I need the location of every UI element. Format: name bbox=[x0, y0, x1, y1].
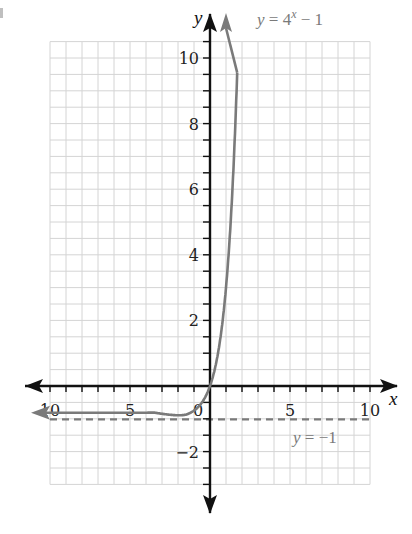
y-axis-label: y bbox=[192, 7, 203, 28]
x-tick-label: 10 bbox=[360, 401, 380, 420]
asym-eq-y: y bbox=[291, 428, 301, 447]
y-tick-label: 2 bbox=[189, 311, 199, 330]
y-tick-label: 6 bbox=[189, 180, 199, 199]
y-tick-label: 8 bbox=[189, 115, 199, 134]
axes bbox=[25, 13, 398, 514]
x-tick-label: 5 bbox=[125, 401, 135, 420]
curve-equation-label: y = 4x − 1 bbox=[255, 7, 323, 29]
curve-eq-prefix: = 4 bbox=[265, 10, 292, 29]
y-tick-label: −2 bbox=[175, 443, 199, 462]
curve-eq-y: y bbox=[255, 10, 265, 29]
asym-eq-rest: = −1 bbox=[301, 428, 337, 447]
asymptote-equation-label: y = −1 bbox=[291, 428, 337, 447]
x-axis-label: x bbox=[388, 388, 398, 409]
y-tick-label: 10 bbox=[179, 49, 199, 68]
curve-upper-extension bbox=[226, 28, 237, 73]
x-tick-label: 5 bbox=[285, 401, 295, 420]
curve-eq-suffix: − 1 bbox=[296, 10, 323, 29]
exponential-graph: 1050510108642−2 y x y = 4x − 1 y = −1 bbox=[0, 0, 412, 534]
y-tick-label: 4 bbox=[189, 246, 199, 265]
